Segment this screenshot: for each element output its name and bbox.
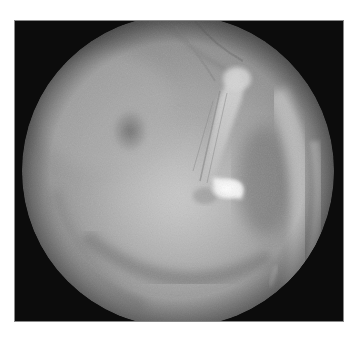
otoscopic-image: [15, 21, 343, 321]
endoscope-frame: [15, 21, 343, 321]
image-canvas: otoscopic view of tympanic membrane (gra…: [0, 0, 361, 337]
